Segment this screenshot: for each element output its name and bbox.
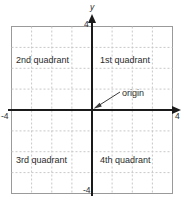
y-axis-max-tick-label: 4 bbox=[84, 20, 89, 29]
origin-annotation-label: origin bbox=[122, 89, 144, 98]
quadrant-label-third: 3rd quadrant bbox=[16, 156, 67, 165]
x-axis-min-tick-label: -4 bbox=[1, 112, 9, 121]
quadrant-label-first: 1st quadrant bbox=[100, 56, 150, 65]
x-axis-max-tick-label: 4 bbox=[175, 112, 180, 121]
coordinate-plane-figure: 2nd quadrant 1st quadrant 3rd quadrant 4… bbox=[0, 0, 184, 201]
quadrant-label-fourth: 4th quadrant bbox=[100, 156, 151, 165]
y-axis-min-tick-label: -4 bbox=[83, 186, 91, 195]
y-axis-name-label: y bbox=[90, 3, 94, 12]
y-axis-arrowhead bbox=[88, 14, 96, 23]
coordinate-plane-svg bbox=[0, 0, 184, 201]
quadrant-label-second: 2nd quadrant bbox=[16, 56, 69, 65]
